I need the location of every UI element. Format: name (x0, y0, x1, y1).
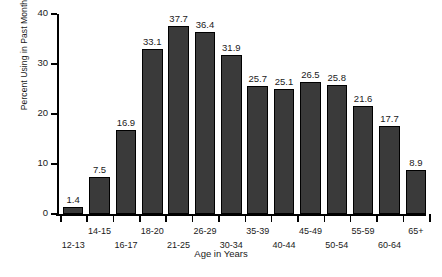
bar-slot: 1.4 (63, 14, 84, 214)
x-tick (376, 214, 378, 222)
bar-value-label: 21.6 (354, 93, 373, 104)
y-tick-label: 40 (37, 7, 48, 18)
bar (247, 86, 268, 215)
bar-value-label: 31.9 (222, 42, 241, 53)
bar-slot: 7.5 (89, 14, 110, 214)
x-axis-line (56, 214, 426, 216)
x-tick (192, 214, 194, 222)
x-tick-label: 45-49 (299, 226, 322, 236)
bar-value-label: 33.1 (143, 36, 162, 47)
y-tick-label: 0 (43, 207, 48, 218)
x-tick (113, 214, 115, 222)
bar-value-label: 7.5 (93, 164, 106, 175)
x-tick (271, 214, 273, 222)
bar-value-label: 8.9 (409, 157, 422, 168)
x-tick-label: 26-29 (193, 226, 216, 236)
bar-slot: 16.9 (116, 14, 137, 214)
bar (89, 177, 110, 215)
bar (379, 126, 400, 215)
bar-slot: 25.1 (274, 14, 295, 214)
x-tick (403, 214, 405, 222)
y-tick-label: 30 (37, 57, 48, 68)
plot-area: 010203040 1.47.516.933.137.736.431.925.7… (57, 14, 426, 214)
bar-slot: 25.7 (247, 14, 268, 214)
bar (406, 170, 427, 215)
bar (300, 82, 321, 215)
bar-value-label: 36.4 (196, 19, 215, 30)
bar (221, 55, 242, 215)
x-axis-title: Age in Years (0, 248, 442, 259)
bar-series: 1.47.516.933.137.736.431.925.725.126.525… (57, 14, 426, 214)
bar-slot: 33.1 (142, 14, 163, 214)
bar (195, 32, 216, 214)
bar-slot: 17.7 (379, 14, 400, 214)
bar-value-label: 25.8 (328, 72, 347, 83)
bar-chart: Percent Using in Past Month 010203040 1.… (0, 0, 442, 277)
bar (142, 49, 163, 215)
bar-slot: 25.8 (327, 14, 348, 214)
bar-slot: 37.7 (168, 14, 189, 214)
x-tick (429, 214, 431, 222)
bar (327, 85, 348, 214)
y-tick-label: 10 (37, 157, 48, 168)
bar-value-label: 37.7 (169, 13, 188, 24)
bar (168, 26, 189, 215)
x-tick-label: 55-59 (352, 226, 375, 236)
y-axis-title: Percent Using in Past Month (19, 0, 29, 135)
bar-value-label: 26.5 (301, 69, 320, 80)
x-tick (245, 214, 247, 222)
x-tick (324, 214, 326, 222)
x-tick-label: 18-20 (141, 226, 164, 236)
bar (63, 207, 84, 214)
x-tick (350, 214, 352, 222)
bar-value-label: 1.4 (67, 194, 80, 205)
bar-value-label: 16.9 (117, 117, 136, 128)
x-tick (165, 214, 167, 222)
bar-slot: 26.5 (300, 14, 321, 214)
bar-slot: 8.9 (406, 14, 427, 214)
x-tick (86, 214, 88, 222)
bar-value-label: 17.7 (380, 113, 399, 124)
bar-value-label: 25.1 (275, 76, 294, 87)
bar-slot: 36.4 (195, 14, 216, 214)
bar (116, 130, 137, 215)
x-tick-label: 14-15 (88, 226, 111, 236)
x-tick (297, 214, 299, 222)
bar (353, 106, 374, 214)
x-tick-label: 35-39 (246, 226, 269, 236)
bar-value-label: 25.7 (248, 73, 267, 84)
x-tick (218, 214, 220, 222)
x-tick (139, 214, 141, 222)
bar (274, 89, 295, 215)
y-tick-label: 20 (37, 107, 48, 118)
x-tick-label: 65+ (408, 226, 423, 236)
bar-slot: 21.6 (353, 14, 374, 214)
bar-slot: 31.9 (221, 14, 242, 214)
x-tick (60, 214, 62, 222)
